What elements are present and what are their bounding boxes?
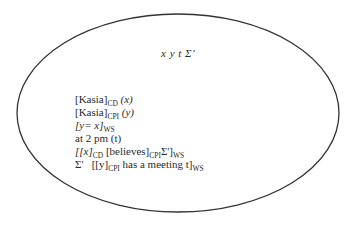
part: has a meeting t] [120,158,193,170]
tail: (y) [119,106,134,118]
subscript: WS [193,164,204,173]
label: [Kasia] [75,106,107,118]
var-sigma: Σ' [185,47,195,59]
condition-sigma-meeting: Σ' [[y]CPI has a meeting t]WS [75,158,204,171]
condition-y-equals-x: [y= x]WS [75,119,204,132]
condition-kasia-cpi: [Kasia]CPI (y) [75,106,204,119]
label: at 2 pm (t) [75,132,121,144]
condition-x-believes: [[x]CD [believes]CPIΣ']WS [75,145,204,158]
tail: (x) [118,93,133,105]
part: Σ'] [161,145,173,157]
subscript: CPI [108,164,120,173]
condition-kasia-cd: [Kasia]CD (x) [75,93,204,106]
label: [Kasia] [75,93,107,105]
var-y: y [170,47,175,59]
label: [y= x] [75,119,104,131]
part: Σ' [[y] [75,158,108,170]
condition-list: [Kasia]CD (x) [Kasia]CPI (y) [y= x]WS at… [75,93,204,172]
referent-header: x y t Σ' [0,47,356,59]
var-x: x [161,47,166,59]
part: [[x] [75,145,93,157]
part: [believes] [103,145,149,157]
condition-at-2pm: at 2 pm (t) [75,132,204,145]
var-t: t [178,47,182,59]
